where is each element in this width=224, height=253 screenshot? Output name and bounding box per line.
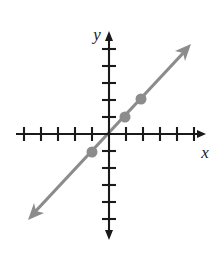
y-axis-arrowhead-bottom xyxy=(105,230,113,240)
y-axis-group: y xyxy=(91,25,116,240)
point-one xyxy=(120,112,131,123)
graph-canvas: x y xyxy=(0,0,224,253)
x-axis-arrowhead xyxy=(197,130,206,138)
x-axis-group: x xyxy=(16,127,209,162)
point-negative-one xyxy=(87,147,98,158)
point-two xyxy=(136,94,147,105)
y-axis-arrowhead-top xyxy=(105,31,113,41)
y-axis-label: y xyxy=(91,25,101,44)
x-axis-label: x xyxy=(200,143,209,162)
coordinate-plane-figure: x y xyxy=(0,0,224,253)
